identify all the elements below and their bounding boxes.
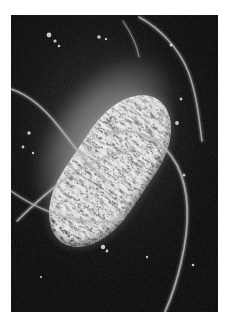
debris-speck bbox=[90, 200, 93, 203]
debris-speck bbox=[146, 256, 148, 258]
debris-speck bbox=[180, 98, 183, 101]
debris-speck bbox=[106, 250, 109, 253]
debris-speck bbox=[66, 190, 69, 193]
debris-speck bbox=[47, 33, 52, 38]
page-root bbox=[0, 0, 231, 329]
debris-speck bbox=[27, 131, 30, 134]
debris-speck bbox=[170, 44, 173, 47]
debris-speck bbox=[97, 35, 101, 39]
debris-speck bbox=[32, 152, 34, 154]
debris-particles bbox=[11, 15, 218, 312]
debris-speck bbox=[183, 174, 186, 177]
debris-speck bbox=[22, 146, 25, 149]
debris-speck bbox=[58, 45, 61, 48]
debris-speck bbox=[105, 38, 107, 40]
micrograph-photo bbox=[11, 15, 218, 312]
debris-speck bbox=[175, 121, 179, 125]
debris-speck bbox=[192, 264, 195, 267]
debris-speck bbox=[40, 276, 42, 278]
debris-speck bbox=[53, 39, 56, 42]
debris-speck bbox=[101, 245, 105, 249]
debris-speck bbox=[55, 227, 58, 230]
